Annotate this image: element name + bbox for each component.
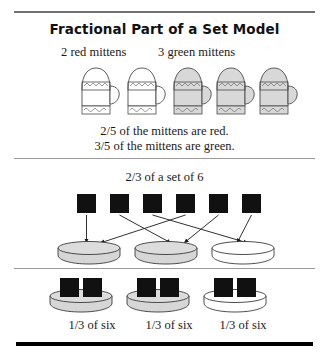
- square-3: [143, 194, 162, 213]
- page-title: Fractional Part of a Set Model: [0, 21, 329, 37]
- square-5: [209, 194, 228, 213]
- square-6: [242, 194, 261, 213]
- sentence-red-fraction: 2/5 of the mittens are red.: [0, 124, 329, 139]
- divider-middle-2: [14, 268, 315, 269]
- arrow-2-to-dish-2: [120, 215, 172, 243]
- mitten-5: [260, 68, 297, 114]
- dish-3: [212, 242, 274, 265]
- square-1: [77, 194, 96, 213]
- dish-1: [58, 242, 120, 265]
- mitten-4: [217, 68, 254, 114]
- thirds-dish-1: [50, 278, 112, 312]
- worksheet-page: Fractional Part of a Set Model 2 red mit…: [0, 0, 329, 359]
- mitten-1: [82, 68, 119, 114]
- thirds-dish-3: [204, 278, 266, 312]
- square-4: [176, 194, 195, 213]
- sentence-green-fraction: 3/5 of the mittens are green.: [0, 139, 329, 154]
- arrow-6-to-dish-3: [237, 215, 252, 243]
- thirds-dish-2: [127, 278, 189, 312]
- dish-2: [135, 242, 197, 265]
- thirds-captions: 1/3 of six 1/3 of six 1/3 of six: [0, 318, 329, 334]
- caption-third-3: 1/3 of six: [198, 318, 288, 333]
- divider-bottom: [16, 342, 313, 346]
- square-2: [110, 194, 129, 213]
- arrow-3-to-dish-3: [153, 215, 249, 243]
- divider-middle-1: [14, 158, 315, 159]
- mitten-3: [174, 68, 211, 114]
- heading-two-thirds-of-six: 2/3 of a set of 6: [0, 170, 329, 185]
- label-red-mittens: 2 red mittens: [61, 45, 126, 60]
- arrow-5-to-dish-2: [184, 215, 219, 243]
- arrow-4-to-dish-1: [100, 215, 186, 243]
- divider-top: [14, 11, 315, 13]
- mitten-2: [128, 68, 165, 114]
- label-green-mittens: 3 green mittens: [158, 45, 235, 60]
